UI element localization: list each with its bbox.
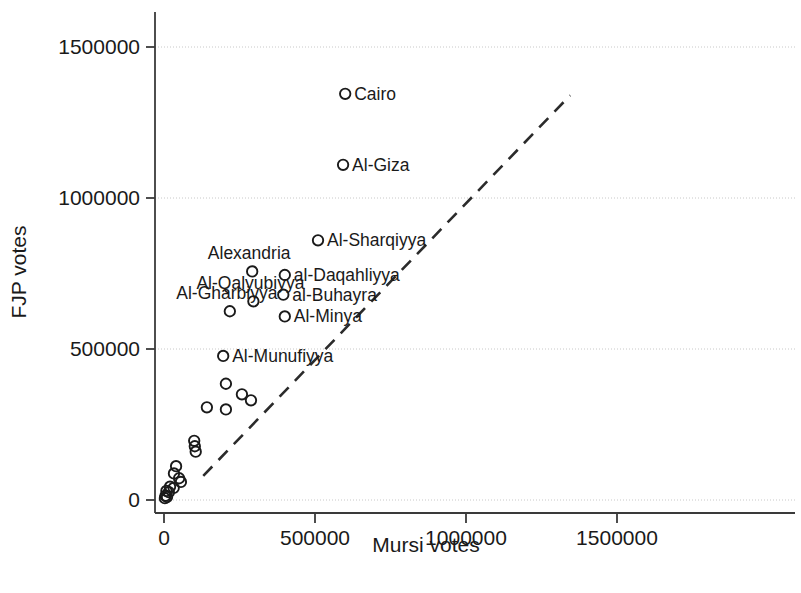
data-point-label: Al-Minya [294, 306, 362, 326]
y-tick-label: 1500000 [58, 35, 140, 58]
y-tick-label: 0 [128, 488, 140, 511]
data-point-label: Cairo [354, 84, 396, 104]
data-point-label: Al-Giza [352, 155, 410, 175]
data-point-label: al-Buhayra [292, 285, 377, 305]
scatter-plot: CairoAl-GizaAl-Sharqiyyaal-Daqahliyyaal-… [0, 0, 801, 593]
x-axis-title: Mursi votes [372, 533, 479, 556]
x-tick-label: 500000 [280, 526, 350, 549]
data-point-label: Al-Munufiyya [232, 346, 333, 366]
x-tick-label: 0 [158, 526, 170, 549]
y-axis-title: FJP votes [7, 226, 30, 319]
chart-figure: CairoAl-GizaAl-Sharqiyyaal-Daqahliyyaal-… [0, 0, 801, 593]
y-tick-label: 1000000 [58, 186, 140, 209]
data-point-label: Al-Gharbiyya [176, 283, 277, 303]
data-point-label: al-Daqahliyya [294, 265, 400, 285]
y-tick-label: 500000 [70, 337, 140, 360]
data-point-label: Alexandria [208, 243, 291, 263]
plot-background [0, 0, 801, 593]
x-tick-label: 1500000 [576, 526, 658, 549]
data-point-label: Al-Sharqiyya [327, 230, 426, 250]
